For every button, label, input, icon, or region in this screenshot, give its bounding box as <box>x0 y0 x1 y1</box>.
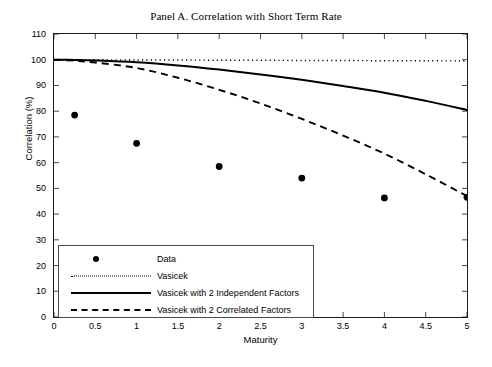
legend-item-data: Data <box>59 250 313 267</box>
y-tick-label: 30 <box>12 235 46 245</box>
x-tick-label: 0.5 <box>75 321 115 331</box>
x-tick-label: 3 <box>282 321 322 331</box>
solid-line-icon <box>65 286 157 300</box>
legend-label: Vasicek with 2 Independent Factors <box>157 288 299 298</box>
legend-item-vasicek: Vasicek <box>59 267 313 284</box>
series-data-points <box>71 112 467 202</box>
legend-label: Data <box>157 254 176 264</box>
x-axis-label: Maturity <box>53 334 468 345</box>
y-tick-label: 10 <box>12 286 46 296</box>
x-tick-label: 2.5 <box>241 321 281 331</box>
x-tick-label: 5 <box>447 321 487 331</box>
x-tick-label: 2 <box>199 321 239 331</box>
legend-label: Vasicek <box>157 271 188 281</box>
x-tick-label: 1 <box>117 321 157 331</box>
series-dashed-line <box>54 60 467 196</box>
legend-label: Vasicek with 2 Correlated Factors <box>157 305 291 315</box>
x-tick-label: 1.5 <box>158 321 198 331</box>
series-solid-line <box>54 60 467 110</box>
chart-title: Panel A. Correlation with Short Term Rat… <box>0 10 492 22</box>
x-tick-label: 4 <box>364 321 404 331</box>
dotted-line-icon <box>65 269 157 283</box>
x-tick-label: 0 <box>34 321 74 331</box>
dashed-line-icon <box>65 303 157 317</box>
y-tick-label: 110 <box>12 29 46 39</box>
y-axis-label: Correlation (%) <box>23 54 34 204</box>
legend-item-independent-factors: Vasicek with 2 Independent Factors <box>59 284 313 301</box>
legend-item-correlated-factors: Vasicek with 2 Correlated Factors <box>59 301 313 318</box>
y-tick-label: 20 <box>12 261 46 271</box>
x-tick-label: 3.5 <box>323 321 363 331</box>
x-tick-label: 4.5 <box>406 321 446 331</box>
y-tick-label: 40 <box>12 209 46 219</box>
dot-marker-icon <box>65 252 157 266</box>
chart-legend: Data Vasicek Vasicek with 2 Independent … <box>58 245 314 318</box>
figure-canvas: Panel A. Correlation with Short Term Rat… <box>0 0 492 367</box>
